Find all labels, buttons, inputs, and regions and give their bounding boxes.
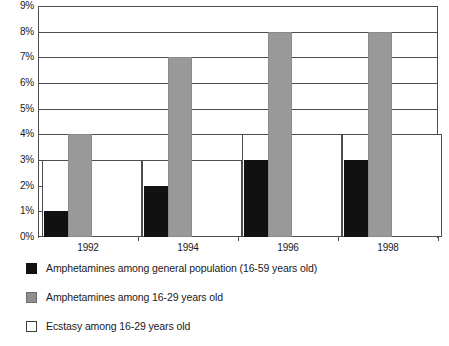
legend-label: Amphetamines among general population (1… (46, 262, 317, 275)
y-axis-tick-label: 5% (2, 104, 34, 114)
bar-ecstasy-extension-1996 (290, 134, 342, 237)
bar-amphetamines-young-1994 (168, 57, 192, 237)
bar-chart: 9%8%7%6%5%4%3%2%1%0% 1992199419961998 Am… (0, 0, 449, 346)
legend-swatch-black-icon (26, 263, 37, 274)
bar-amphetamines-young-1998 (368, 32, 392, 237)
y-axis-tick-label: 3% (2, 155, 34, 165)
bar-ecstasy-extension-1992 (90, 160, 142, 237)
y-axis-tick-label: 4% (2, 129, 34, 139)
y-axis-tick-label: 1% (2, 206, 34, 216)
y-axis-tick-label: 8% (2, 27, 34, 37)
y-axis-tick-label: 7% (2, 52, 34, 62)
plot-area (38, 6, 438, 237)
y-axis-label-group: 9%8%7%6%5%4%3%2%1%0% (0, 6, 34, 237)
legend-item[interactable]: Amphetamines among general population (1… (26, 262, 436, 291)
y-axis-tick-label: 6% (2, 78, 34, 88)
bar-ecstasy-extension-1994 (190, 160, 242, 237)
legend-label: Amphetamines among 16-29 years old (46, 291, 223, 304)
grid-line (38, 6, 438, 7)
x-axis-tick-label: 1996 (238, 242, 338, 253)
bar-amphetamines-young-1996 (268, 32, 292, 237)
legend-label: Ecstasy among 16-29 years old (46, 320, 190, 333)
x-axis-tick-label: 1998 (338, 242, 438, 253)
bar-amphetamines-young-1992 (68, 134, 92, 237)
bar-amphetamines-general-1992 (44, 211, 68, 237)
bar-amphetamines-general-1994 (144, 186, 168, 237)
y-axis-tick-label: 2% (2, 181, 34, 191)
bar-amphetamines-general-1998 (344, 160, 368, 237)
legend-item[interactable]: Ecstasy among 16-29 years old (26, 320, 436, 346)
x-axis-tick-label: 1992 (38, 242, 138, 253)
chart-legend: Amphetamines among general population (1… (26, 262, 436, 346)
x-axis-tick-label: 1994 (138, 242, 238, 253)
bar-ecstasy-extension-1998 (390, 134, 442, 237)
bar-amphetamines-general-1996 (244, 160, 268, 237)
legend-item[interactable]: Amphetamines among 16-29 years old (26, 291, 436, 320)
y-axis-tick-label: 0% (2, 232, 34, 242)
legend-swatch-gray-icon (26, 292, 37, 303)
y-axis-tick-label: 9% (2, 1, 34, 11)
legend-swatch-white-icon (26, 321, 37, 332)
y-axis-line (38, 6, 39, 238)
